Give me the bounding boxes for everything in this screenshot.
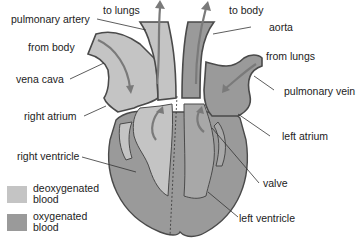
legend-swatch-oxygenated bbox=[7, 214, 27, 231]
label-pulmonary-artery: pulmonary artery bbox=[11, 14, 90, 25]
legend-deoxygenated-line2: blood bbox=[33, 194, 99, 205]
legend-swatch-deoxygenated bbox=[7, 186, 27, 203]
label-to-lungs: to lungs bbox=[103, 5, 140, 16]
label-pulmonary-vein: pulmonary vein bbox=[284, 86, 355, 97]
right-atrium bbox=[88, 32, 158, 112]
legend-label-deoxygenated: deoxygenated blood bbox=[33, 183, 99, 205]
label-left-ventricle: left ventricle bbox=[239, 213, 295, 224]
label-to-body: to body bbox=[229, 5, 263, 16]
label-left-atrium: left atrium bbox=[282, 131, 328, 142]
heart-diagram bbox=[0, 0, 357, 244]
label-right-atrium: right atrium bbox=[24, 111, 77, 122]
legend-oxygenated-line2: blood bbox=[33, 222, 87, 233]
legend-label-oxygenated: oxygenated blood bbox=[33, 211, 87, 233]
left-atrium bbox=[204, 55, 262, 116]
label-right-ventricle: right ventricle bbox=[17, 151, 79, 162]
label-vena-cava: vena cava bbox=[16, 74, 64, 85]
label-from-lungs: from lungs bbox=[266, 51, 315, 62]
label-valve: valve bbox=[263, 178, 288, 189]
label-aorta: aorta bbox=[269, 22, 293, 33]
label-from-body: from body bbox=[28, 42, 75, 53]
